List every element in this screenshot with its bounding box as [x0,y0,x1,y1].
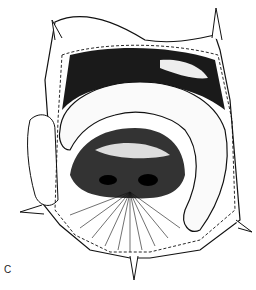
retractor-top-right [212,8,222,40]
surgical-illustration [0,0,256,290]
retractor-left [20,205,44,214]
left-opening [99,175,117,185]
hand [28,115,58,206]
right-opening [138,174,158,186]
retractor-bottom [130,256,138,280]
retractor-right [236,220,252,232]
panel-label: C [4,264,11,275]
